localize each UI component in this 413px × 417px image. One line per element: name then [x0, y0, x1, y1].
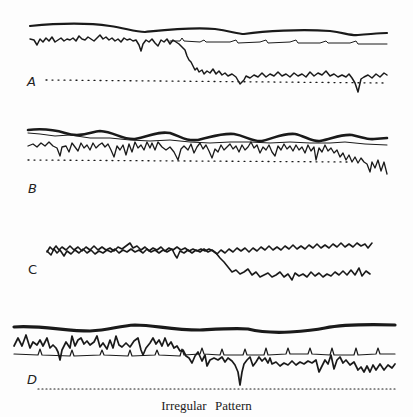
panel-c-traces: [47, 243, 372, 280]
figure-irregular-pattern: A B C D Irregular Pattern: [0, 0, 413, 417]
panel-b-noisy-trace: [28, 142, 387, 174]
panel-a-thin-baseline: [170, 38, 387, 44]
panel-a-traces: [30, 24, 387, 92]
traces-canvas: [0, 0, 413, 417]
panel-b-dotted-reference: [28, 160, 350, 162]
panel-c-upper-trace: [47, 243, 372, 254]
panel-label-c: C: [28, 262, 37, 277]
panel-a-noisy-trace: [30, 35, 387, 92]
panel-d-traces: [14, 325, 395, 389]
panel-a-thick-wave: [30, 24, 387, 35]
panel-b-thick-wave: [28, 129, 387, 141]
panel-d-thick-wave: [14, 325, 395, 333]
panel-label-b: B: [28, 181, 37, 196]
panel-d-noisy-trace: [14, 335, 395, 385]
panel-c-lower-trace: [47, 249, 370, 280]
panel-label-d: D: [27, 372, 37, 387]
panel-b-traces: [28, 129, 387, 174]
panel-a-dotted-reference: [46, 80, 385, 83]
figure-caption: Irregular Pattern: [0, 398, 413, 414]
panel-label-a: A: [27, 74, 36, 89]
